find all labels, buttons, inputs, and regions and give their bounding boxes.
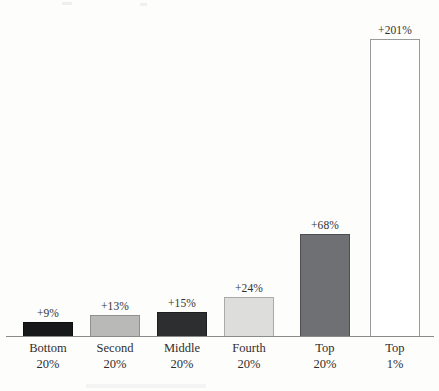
- x-label-line1: Top: [286, 340, 364, 356]
- bar-top-20: [300, 234, 350, 337]
- x-axis-labels: Bottom 20% Second 20% Middle 20% Fourth …: [0, 340, 439, 391]
- x-label-line1: Top: [356, 340, 434, 356]
- bar-value-label: +68%: [286, 219, 364, 232]
- bar-value-label: +201%: [356, 24, 434, 37]
- bar-bottom-20: [23, 322, 73, 337]
- x-axis-line: [6, 336, 434, 337]
- bar-value-label: +15%: [143, 297, 221, 310]
- x-label-line1: Fourth: [210, 340, 288, 356]
- bar-chart-figure: +9% +13% +15% +24% +68% +201% Bottom 2: [0, 0, 439, 391]
- bar-top-1: [370, 39, 420, 337]
- x-label-top-20: Top 20%: [286, 340, 364, 372]
- plot-area: +9% +13% +15% +24% +68% +201%: [0, 0, 439, 337]
- x-label-top-1: Top 1%: [356, 340, 434, 372]
- bar-middle-20: [157, 312, 207, 337]
- x-label-line2: 20%: [286, 356, 364, 372]
- bar-second-20: [90, 315, 140, 337]
- x-label-line2: 1%: [356, 356, 434, 372]
- x-label-fourth-20: Fourth 20%: [210, 340, 288, 372]
- bar-fourth-20: [224, 297, 274, 337]
- bar-value-label: +24%: [210, 282, 288, 295]
- x-label-line2: 20%: [210, 356, 288, 372]
